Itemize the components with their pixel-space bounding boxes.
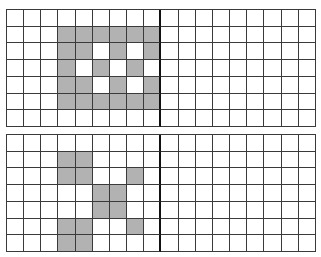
grid-cell-empty [282,110,299,127]
grid-cell-empty [230,202,247,219]
grid-cell-empty [93,135,110,152]
grid-cell-empty [24,202,41,219]
grid-cell-filled [58,77,75,94]
grid-cell-empty [247,27,264,44]
grid-cell-empty [41,110,58,127]
grid-cell-empty [196,152,213,169]
grid-cell-empty [230,168,247,185]
grid-cell-empty [127,43,144,60]
grid-cell-empty [179,10,196,27]
grid-cell-empty [7,94,24,111]
grid-cell-empty [76,110,93,127]
grid-cell-empty [264,219,281,236]
grid-cell-empty [7,185,24,202]
grid-cell-empty [264,27,281,44]
grid-cell-empty [93,152,110,169]
grid-cell-empty [41,10,58,27]
grid-cell-empty [282,219,299,236]
grid-cell-filled [58,219,75,236]
grid-cell-empty [41,60,58,77]
grid-cell-empty [179,235,196,252]
grid-cell-empty [144,235,161,252]
grid-cell-empty [196,77,213,94]
grid-cell-empty [127,235,144,252]
grid-cell-empty [127,77,144,94]
grid-cell-empty [196,10,213,27]
grid-cell-filled [110,202,127,219]
grid-cell-empty [161,43,178,60]
grid-cell-empty [247,185,264,202]
grid-cell-empty [247,219,264,236]
grid-cell-empty [7,110,24,127]
grid-cell-empty [299,185,316,202]
grid-cell-filled [58,60,75,77]
grid-cell-filled [144,27,161,44]
grid-cell-empty [230,60,247,77]
grid-cell-empty [7,77,24,94]
grid-cell-empty [161,185,178,202]
grid-cell-empty [41,152,58,169]
grid-cell-empty [58,135,75,152]
grid-cell-filled [58,235,75,252]
grid-cell-empty [144,168,161,185]
grid-cell-empty [213,185,230,202]
grid-cell-empty [24,77,41,94]
grid-cell-empty [161,135,178,152]
grid-cell-empty [196,27,213,44]
grid-cell-empty [144,110,161,127]
grid-cell-empty [282,235,299,252]
grid-cell-empty [213,60,230,77]
grid-cell-empty [24,152,41,169]
grid-cell-filled [127,60,144,77]
grid-cell-empty [7,235,24,252]
grid-cell-filled [144,43,161,60]
grid-cell-empty [264,60,281,77]
grid-cell-empty [179,94,196,111]
grid-cell-filled [76,235,93,252]
grid-cell-empty [299,110,316,127]
grid-cell-empty [179,27,196,44]
grid-cell-empty [196,202,213,219]
grid-cell-empty [213,94,230,111]
grid-cell-empty [41,77,58,94]
grid-cell-empty [179,110,196,127]
grid-cell-empty [93,110,110,127]
grid-cell-empty [93,10,110,27]
grid-cell-empty [144,219,161,236]
grid-cell-filled [127,94,144,111]
grid-cell-empty [110,135,127,152]
grid-cell-empty [247,77,264,94]
grid-cell-filled [58,94,75,111]
grid-cell-empty [41,27,58,44]
grid-cell-empty [144,152,161,169]
grid-cell-empty [127,110,144,127]
grid-cell-filled [76,43,93,60]
grid-cell-filled [110,94,127,111]
grid-cell-empty [41,235,58,252]
grid-cell-empty [7,43,24,60]
grid-cell-empty [161,168,178,185]
grid-cell-empty [282,185,299,202]
grid-cell-empty [247,110,264,127]
grid-cell-empty [161,152,178,169]
grid-cell-empty [93,43,110,60]
grid-cell-empty [196,185,213,202]
grid-cell-empty [230,219,247,236]
grid-cell-empty [230,110,247,127]
grid-cell-empty [264,152,281,169]
grid-cell-filled [76,27,93,44]
grid-cell-filled [93,202,110,219]
grid-cell-filled [110,77,127,94]
grid-cell-empty [247,10,264,27]
grid-cell-empty [196,43,213,60]
grid-cell-filled [144,77,161,94]
grid-cell-empty [76,135,93,152]
grid-cell-empty [58,10,75,27]
grid-cell-empty [7,152,24,169]
grid-cell-empty [110,60,127,77]
grid-cell-empty [24,168,41,185]
bottom-grid [6,134,316,252]
grid-cell-empty [41,43,58,60]
grid-cell-empty [247,235,264,252]
grid-cell-empty [213,27,230,44]
